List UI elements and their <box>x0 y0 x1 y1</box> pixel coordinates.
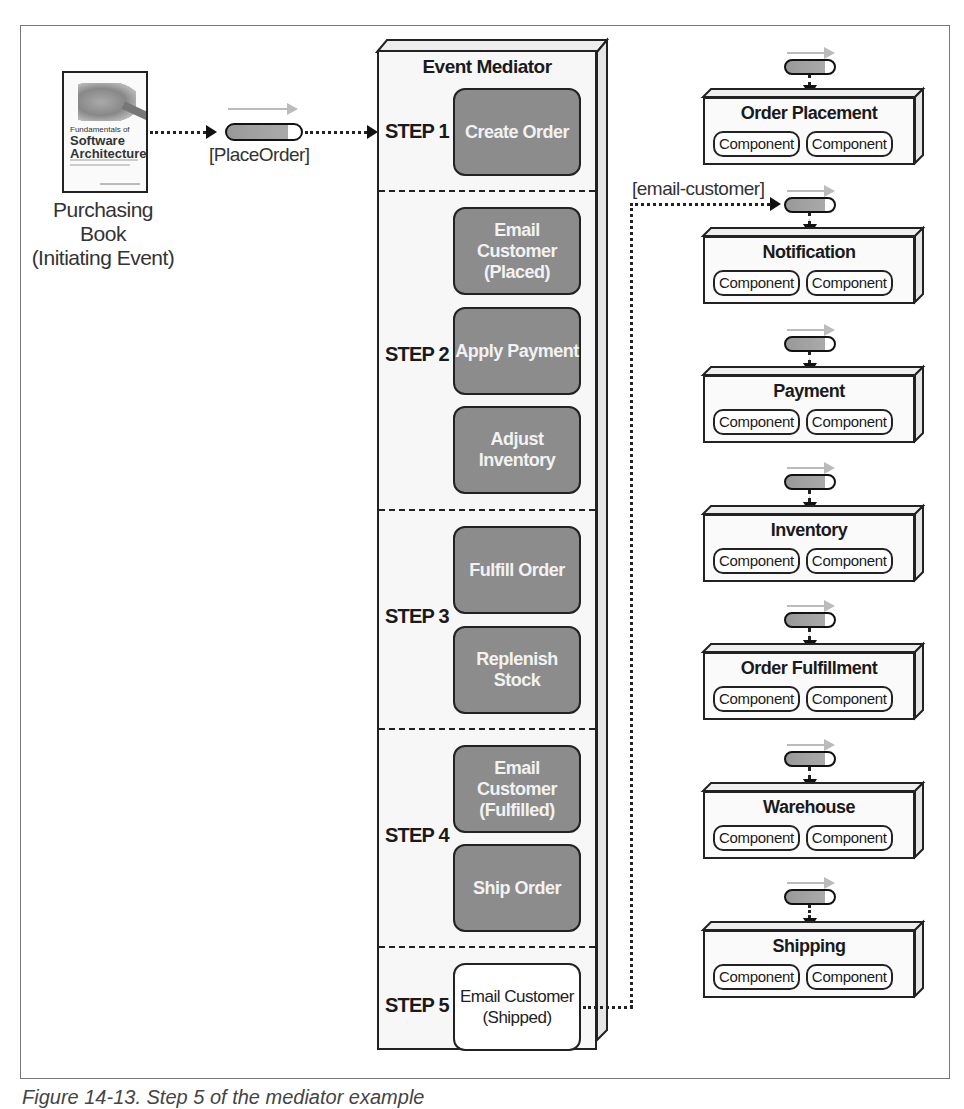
component-list: Component Component <box>713 964 893 990</box>
initiating-event-label-line1: Purchasing Book <box>28 198 178 246</box>
adjust-inventory-box: Adjust Inventory <box>453 406 581 494</box>
service-name: Order Placement <box>705 103 913 124</box>
figure-caption: Figure 14-13. Step 5 of the mediator exa… <box>22 1086 424 1109</box>
service-inventory: Inventory Component Component <box>703 514 915 582</box>
dotted-connector <box>150 131 206 134</box>
dotted-connector <box>808 490 811 502</box>
warehouse-queue <box>784 751 836 767</box>
service-warehouse: Warehouse Component Component <box>703 791 915 859</box>
step-divider <box>379 509 595 511</box>
component-pill: Component <box>806 825 893 851</box>
flow-direction-icon <box>787 744 825 746</box>
component-pill: Component <box>713 270 800 296</box>
component-pill: Component <box>806 548 893 574</box>
book-authors-line <box>100 183 140 185</box>
dotted-connector <box>630 203 633 1008</box>
component-pill: Component <box>713 548 800 574</box>
component-pill: Component <box>713 686 800 712</box>
notification-queue <box>784 197 836 213</box>
flow-direction-icon <box>787 190 825 192</box>
dotted-connector <box>808 767 811 779</box>
dotted-connector <box>808 628 811 640</box>
service-name: Shipping <box>705 936 913 957</box>
component-pill: Component <box>806 686 893 712</box>
dotted-connector <box>808 213 811 224</box>
email-customer-channel-label: [email-customer] <box>632 178 764 200</box>
component-list: Component Component <box>713 131 893 157</box>
component-list: Component Component <box>713 686 893 712</box>
component-pill: Component <box>806 270 893 296</box>
step-1-label: STEP 1 <box>385 120 449 143</box>
inventory-queue <box>784 474 836 490</box>
service-notification: Notification Component Component <box>703 236 915 304</box>
arrow-right-icon <box>770 197 781 211</box>
flow-direction-icon <box>787 605 825 607</box>
initiating-event-label: Purchasing Book (Initiating Event) <box>28 198 178 270</box>
dotted-connector <box>305 131 367 134</box>
flow-direction-icon <box>228 108 288 110</box>
component-pill: Component <box>713 409 800 435</box>
step-5-label: STEP 5 <box>385 994 449 1017</box>
shipping-queue <box>784 889 836 905</box>
step-2-label: STEP 2 <box>385 343 449 366</box>
service-name: Inventory <box>705 520 913 541</box>
service-name: Warehouse <box>705 797 913 818</box>
dotted-connector <box>808 905 811 918</box>
book-cover-image: Fundamentals of Software Architecture <box>62 71 148 193</box>
arrow-right-icon <box>206 125 217 139</box>
component-pill: Component <box>806 131 893 157</box>
dotted-connector <box>630 203 770 206</box>
service-payment: Payment Component Component <box>703 375 915 443</box>
book-subtitle-line <box>70 159 138 161</box>
flow-direction-icon <box>787 882 825 884</box>
dotted-connector <box>583 1006 633 1009</box>
service-order-placement: Order Placement Component Component <box>703 97 915 165</box>
mediator-3d-side <box>597 40 607 1040</box>
component-list: Component Component <box>713 825 893 851</box>
order-placement-queue <box>784 59 836 75</box>
replenish-stock-box: Replenish Stock <box>453 626 581 714</box>
flow-direction-icon <box>787 329 825 331</box>
apply-payment-box: Apply Payment <box>453 307 581 395</box>
dotted-connector <box>808 75 811 85</box>
service-name: Payment <box>705 381 913 402</box>
step-4-label: STEP 4 <box>385 824 449 847</box>
mediator-title: Event Mediator <box>377 56 597 78</box>
step-3-label: STEP 3 <box>385 605 449 628</box>
flow-direction-icon <box>787 467 825 469</box>
place-order-queue <box>225 123 303 141</box>
flow-direction-icon <box>787 52 825 54</box>
payment-queue <box>784 336 836 352</box>
component-list: Component Component <box>713 548 893 574</box>
component-pill: Component <box>713 825 800 851</box>
email-customer-placed-box: Email Customer (Placed) <box>453 207 581 295</box>
book-title-large: Software Architecture <box>70 134 147 160</box>
email-customer-shipped-box: Email Customer (Shipped) <box>453 963 581 1051</box>
component-pill: Component <box>713 131 800 157</box>
service-shipping: Shipping Component Component <box>703 930 915 998</box>
email-customer-fulfilled-box: Email Customer (Fulfilled) <box>453 745 581 833</box>
service-order-fulfillment: Order Fulfillment Component Component <box>703 652 915 720</box>
service-name: Notification <box>705 242 913 263</box>
service-name: Order Fulfillment <box>705 658 913 679</box>
ship-order-box: Ship Order <box>453 844 581 932</box>
dotted-connector <box>808 352 811 363</box>
component-pill: Component <box>806 409 893 435</box>
step-divider <box>379 190 595 192</box>
initiating-event-label-line2: (Initiating Event) <box>28 246 178 270</box>
step-divider <box>379 946 595 948</box>
step-divider <box>379 728 595 730</box>
create-order-box: Create Order <box>453 88 581 176</box>
order-fulfillment-queue <box>784 612 836 628</box>
component-list: Component Component <box>713 409 893 435</box>
component-list: Component Component <box>713 270 893 296</box>
component-pill: Component <box>806 964 893 990</box>
book-subtitle-line <box>70 164 130 166</box>
place-order-queue-label: [PlaceOrder] <box>209 144 310 166</box>
component-pill: Component <box>713 964 800 990</box>
fulfill-order-box: Fulfill Order <box>453 526 581 614</box>
